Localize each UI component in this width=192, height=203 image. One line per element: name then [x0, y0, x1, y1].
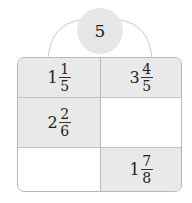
grid-cell-empty: [18, 148, 101, 191]
whole-part: 3: [129, 68, 139, 87]
grid-cell: 2 2 6: [18, 98, 101, 148]
mixed-number: 1 7 8: [129, 154, 152, 185]
denominator: 5: [59, 79, 70, 93]
whole-part: 1: [129, 160, 139, 179]
center-number: 5: [95, 21, 106, 41]
numerator: 7: [141, 154, 152, 168]
denominator: 6: [59, 124, 70, 138]
fraction: 2 6: [59, 107, 71, 138]
grid-cell-empty: [101, 98, 181, 148]
grid-cell: 1 7 8: [101, 148, 181, 191]
numerator: 4: [141, 62, 152, 76]
denominator: 8: [141, 171, 152, 185]
grid-cell: 1 1 5: [18, 58, 101, 98]
center-number-bubble: 5: [77, 8, 123, 54]
mixed-number: 2 2 6: [47, 107, 70, 138]
numerator: 2: [59, 107, 70, 121]
fraction-grid: 1 1 5 3 4 5 2 2 6: [17, 57, 182, 192]
whole-part: 2: [47, 113, 57, 132]
fraction: 4 5: [141, 62, 153, 93]
grid-cell: 3 4 5: [101, 58, 181, 98]
whole-part: 1: [47, 68, 57, 87]
mixed-number: 1 1 5: [47, 62, 70, 93]
mixed-number: 3 4 5: [129, 62, 152, 93]
fraction: 7 8: [141, 154, 153, 185]
denominator: 5: [141, 79, 152, 93]
fraction: 1 5: [59, 62, 71, 93]
numerator: 1: [59, 62, 70, 76]
